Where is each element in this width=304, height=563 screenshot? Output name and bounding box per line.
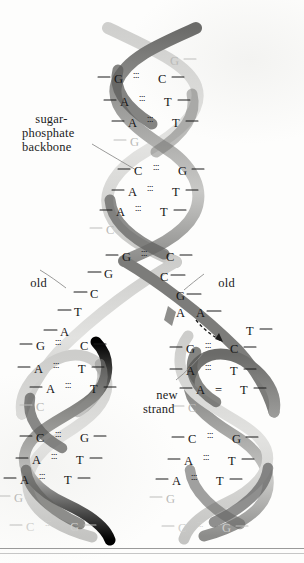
base-pair-right-daughter: G [232,432,241,447]
base-pair-parent: C [106,223,115,238]
free-nucleotide-base: A [176,306,185,321]
hydrogen-bond: ∶∶∶ [197,520,203,530]
hydrogen-bond: ∶∶∶ [203,453,209,463]
base-pair-right-daughter: G [166,492,175,507]
hydrogen-bond: ∶∶∶ [147,184,153,194]
base-pair-left-daughter: A [20,473,29,488]
hydrogen-bond: ∶∶∶ [53,361,59,371]
base-pair-left-daughter: A [46,382,55,397]
hydrogen-bond: ∶∶∶ [45,519,51,529]
base-pair-parent: T [164,95,172,110]
base-pair-left-daughter: C [80,339,89,354]
hydrogen-bond: ∶∶∶ [153,163,159,173]
base-pair-left-daughter: C [36,431,45,446]
base-pair-parent: A [128,116,137,131]
base-pair-left-daughter: T [76,453,84,468]
base-pair-right-daughter: A [196,383,205,398]
unpaired-base-left: C [90,287,99,302]
hydrogen-bond: ∶∶∶ [55,338,61,348]
base-pair-left-daughter: G [14,491,23,506]
base-pair-parent: G [178,164,187,179]
free-nucleotide-shape [164,306,176,326]
base-pair-parent: A [128,185,137,200]
hydrogen-bond: ∶∶∶ [139,94,145,104]
base-pair-left-daughter: T [64,473,72,488]
base-pair-right-daughter: C [188,401,197,416]
base-pair-parent: A [116,205,125,220]
base-pair-right-daughter: G [186,342,195,357]
unpaired-base-left: A [60,325,69,340]
base-pair-parent: T [160,205,168,220]
dna-replication-figure: sugar- phosphate backbone old old new st… [0,0,304,563]
base-pair-right-daughter: T [216,474,224,489]
hydrogen-bond: ∶∶∶ [207,431,213,441]
hydrogen-bond: ∶∶∶ [191,473,197,483]
hydrogen-bond: ∶∶∶ [65,381,71,391]
base-pair-left-daughter: T [78,362,86,377]
base-pair-left-daughter: G [80,431,89,446]
base-pair-parent: G [122,250,131,265]
base-pair-right-daughter: A [172,474,181,489]
base-pair-left-daughter: G [70,520,79,535]
footer-rule-thin [0,553,304,554]
base-pair-parent: G [114,72,123,87]
hydrogen-bond: ∶∶∶ [135,204,141,214]
hydrogen-bond: ∶∶∶ [205,363,211,373]
base-pair-right-daughter: T [230,364,238,379]
base-pair-right-daughter: T [240,383,248,398]
base-pair-left-daughter: C [36,400,45,415]
parent-duplex-ribbons [107,28,198,262]
hydrogen-bond: ∶∶∶ [147,115,153,125]
hydrogen-bond: ∶∶∶ [133,71,139,81]
base-pair-parent: G [130,135,139,150]
unpaired-base-left: G [104,267,113,282]
base-pair-left-daughter: G [36,339,45,354]
callout-sugar-phosphate-backbone: sugar- phosphate backbone [22,98,74,168]
base-pair-right-daughter: A [186,364,195,379]
unpaired-base-right: G [176,289,185,304]
base-pair-right-daughter: A [184,454,193,469]
base-pair-right-daughter: T [228,454,236,469]
unpaired-base-left: T [74,305,82,320]
footer-rule-thick [0,548,304,549]
unpaired-base-right: A [196,306,205,321]
base-pair-left-daughter: A [34,362,43,377]
base-pair-left-daughter: A [32,453,41,468]
base-pair-right-daughter: C [178,521,187,536]
hydrogen-bond: = [215,383,222,398]
base-pair-parent: T [172,185,180,200]
base-pair-parent: C [158,72,167,87]
leader-old-right [184,274,204,290]
base-pair-right-daughter: G [222,521,231,536]
hydrogen-bond: ∶∶∶ [39,472,45,482]
base-pair-parent: C [134,164,143,179]
base-pair-parent: T [172,116,180,131]
callout-old-right: old [205,262,235,304]
callout-old-left: old [17,262,47,304]
base-pair-parent: C [166,250,175,265]
hydrogen-bond: ∶∶∶ [51,452,57,462]
callout-new-strand: new strand [143,374,178,430]
hydrogen-bond: ∶∶∶ [205,341,211,351]
base-pair-parent: A [120,95,129,110]
hydrogen-bond: ∶∶∶ [141,249,147,259]
hydrogen-bond: ∶∶∶ [55,430,61,440]
base-pair-parent: G [170,54,179,69]
base-pair-right-daughter: C [188,432,197,447]
base-pair-right-daughter: C [230,342,239,357]
base-pair-left-daughter: C [26,520,35,535]
base-pair-right-daughter: T [246,324,254,339]
base-pair-left-daughter: T [90,382,98,397]
unpaired-base-right: C [160,270,169,285]
